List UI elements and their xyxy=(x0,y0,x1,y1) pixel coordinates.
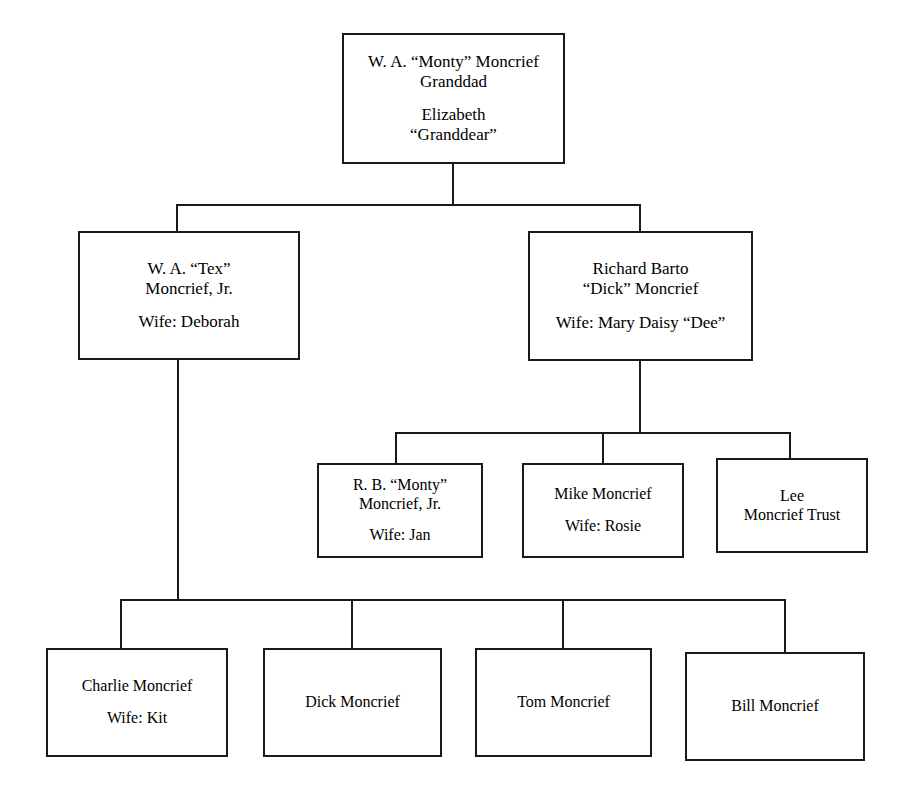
node-text-group: Elizabeth“Granddear” xyxy=(410,105,497,145)
node-text-group: Tom Moncrief xyxy=(517,693,610,712)
node-text-group: Wife: Jan xyxy=(369,526,430,545)
node-text-line: Elizabeth xyxy=(410,105,497,125)
node-text-group: Wife: Kit xyxy=(107,709,167,728)
node-text-group: Wife: Mary Daisy “Dee” xyxy=(556,313,726,333)
node-text-line: Wife: Mary Daisy “Dee” xyxy=(556,313,726,333)
node-text-group: Wife: Rosie xyxy=(565,517,641,536)
node-tex-moncrief[interactable]: W. A. “Tex”Moncrief, Jr.Wife: Deborah xyxy=(78,231,300,360)
node-root-grandparents[interactable]: W. A. “Monty” MoncriefGranddadElizabeth“… xyxy=(342,33,565,164)
node-text-group: W. A. “Tex”Moncrief, Jr. xyxy=(145,259,232,299)
node-text-line: Richard Barto xyxy=(583,259,699,279)
node-mike-moncrief[interactable]: Mike MoncriefWife: Rosie xyxy=(522,463,684,558)
node-charlie-moncrief[interactable]: Charlie MoncriefWife: Kit xyxy=(46,648,228,757)
node-rb-monty-moncrief-jr[interactable]: R. B. “Monty”Moncrief, Jr.Wife: Jan xyxy=(317,463,483,558)
node-tom-moncrief[interactable]: Tom Moncrief xyxy=(475,648,652,757)
node-text-line: Moncrief, Jr. xyxy=(353,495,447,514)
node-text-line: Moncrief, Jr. xyxy=(145,279,232,299)
node-text-line: Wife: Deborah xyxy=(139,312,240,332)
node-lee-moncrief-trust[interactable]: LeeMoncrief Trust xyxy=(716,458,868,553)
node-text-group: Dick Moncrief xyxy=(305,693,400,712)
node-text-group: Charlie Moncrief xyxy=(82,677,193,696)
node-text-line: Lee xyxy=(744,487,840,506)
node-text-group: R. B. “Monty”Moncrief, Jr. xyxy=(353,476,447,514)
node-text-line: Wife: Kit xyxy=(107,709,167,728)
node-text-line: “Granddear” xyxy=(410,125,497,145)
node-text-line: Wife: Jan xyxy=(369,526,430,545)
node-text-line: Tom Moncrief xyxy=(517,693,610,712)
node-text-line: W. A. “Monty” Moncrief xyxy=(368,52,539,72)
node-text-line: R. B. “Monty” xyxy=(353,476,447,495)
node-text-line: Charlie Moncrief xyxy=(82,677,193,696)
family-tree-diagram: W. A. “Monty” MoncriefGranddadElizabeth“… xyxy=(0,0,918,806)
node-bill-moncrief[interactable]: Bill Moncrief xyxy=(685,652,865,761)
node-text-line: “Dick” Moncrief xyxy=(583,279,699,299)
node-text-line: W. A. “Tex” xyxy=(145,259,232,279)
node-text-line: Mike Moncrief xyxy=(554,485,651,504)
node-text-line: Moncrief Trust xyxy=(744,506,840,525)
node-text-group: Richard Barto“Dick” Moncrief xyxy=(583,259,699,299)
node-text-line: Dick Moncrief xyxy=(305,693,400,712)
node-text-line: Wife: Rosie xyxy=(565,517,641,536)
node-text-group: Wife: Deborah xyxy=(139,312,240,332)
node-text-line: Granddad xyxy=(368,72,539,92)
node-text-group: Bill Moncrief xyxy=(731,697,819,716)
node-text-line: Bill Moncrief xyxy=(731,697,819,716)
node-richard-barto-dick-moncrief[interactable]: Richard Barto“Dick” MoncriefWife: Mary D… xyxy=(528,231,753,361)
node-text-group: Mike Moncrief xyxy=(554,485,651,504)
node-dick-moncrief-son[interactable]: Dick Moncrief xyxy=(263,648,442,757)
node-text-group: LeeMoncrief Trust xyxy=(744,487,840,525)
node-text-group: W. A. “Monty” MoncriefGranddad xyxy=(368,52,539,92)
